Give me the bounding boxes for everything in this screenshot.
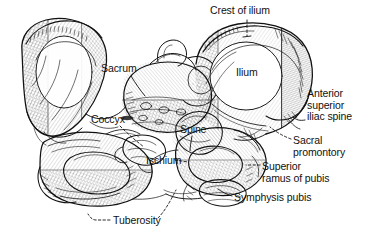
illustration-linework bbox=[18, 16, 318, 220]
label-spine: Spine bbox=[180, 124, 206, 136]
label-coccyx: Coccyx bbox=[91, 114, 125, 126]
label-line-3: iliac spine bbox=[307, 110, 352, 122]
label-sacral-promontory: Sacralpromontory bbox=[293, 135, 345, 158]
label-ilium: Ilium bbox=[236, 67, 258, 79]
label-tuberosity: Tuberosity bbox=[113, 215, 161, 227]
left-iliac-wing bbox=[18, 16, 114, 145]
label-anterior-superior-iliac-spine: Anteriorsuperioriliac spine bbox=[307, 88, 352, 123]
label-line-1: Superior bbox=[262, 160, 301, 172]
label-line-1: Anterior bbox=[307, 87, 343, 99]
label-superior-ramus-of-pubis: Superiorramus of pubis bbox=[262, 161, 329, 184]
label-line-2: ramus of pubis bbox=[262, 172, 329, 184]
leader-tuberosity-left bbox=[88, 214, 110, 220]
label-line-2: promontory bbox=[293, 146, 345, 158]
label-ischium: Ischium bbox=[146, 155, 181, 167]
label-line-1: Sacral bbox=[293, 134, 322, 146]
pelvis-anatomy-figure: Crest of ilium Ilium Anteriorsuperiorili… bbox=[0, 0, 365, 243]
label-crest-of-ilium: Crest of ilium bbox=[210, 5, 270, 17]
label-symphysis-pubis: Symphysis pubis bbox=[234, 192, 311, 204]
label-line-2: superior bbox=[307, 99, 344, 111]
label-sacrum: Sacrum bbox=[101, 63, 137, 75]
